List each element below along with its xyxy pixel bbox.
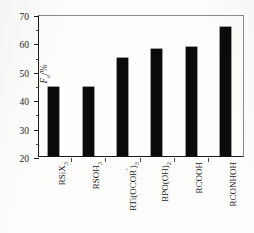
y-tick-major: 40: [34, 101, 39, 102]
y-tick-major: 70: [34, 16, 39, 17]
y-tick-label: 60: [20, 40, 30, 50]
y-tick-label: 70: [20, 12, 30, 22]
x-label-base: RCONHOH: [228, 162, 238, 207]
y-tick-minor: [36, 87, 39, 88]
x-label-subscript: 3: [61, 162, 68, 165]
y-tick-major: 50: [34, 73, 39, 74]
y-tick-minor: [36, 30, 39, 31]
x-tick: [105, 158, 106, 162]
bar-chart-figure: Fe/% 203040506070 RSiX3RSOH3RTi(OCOR')3R…: [0, 0, 254, 233]
x-label-base: RTi(OCOR: [128, 170, 138, 211]
y-tick-label: 40: [20, 97, 30, 107]
bar: [117, 58, 128, 156]
x-label-subscript: 3: [96, 162, 103, 165]
y-tick-label: 20: [20, 154, 30, 164]
y-axis-unit: /%: [39, 64, 49, 75]
x-label-base: RCOOH: [194, 162, 204, 194]
x-axis-label: RTi(OCOR')3: [125, 162, 140, 211]
bar: [186, 47, 197, 156]
y-tick-minor: [36, 59, 39, 60]
y-tick-label: 50: [20, 69, 30, 79]
bar: [48, 87, 59, 156]
y-tick-minor: [36, 144, 39, 145]
x-axis-label: RPO(OH)2: [160, 162, 172, 202]
x-label-prime: ': [125, 168, 134, 169]
x-axis-label: RSiX3: [57, 162, 69, 185]
y-tick-major: 30: [34, 130, 39, 131]
x-tick: [71, 158, 72, 162]
x-axis-label: RCONHOH: [228, 162, 238, 207]
x-label-subscript: 2: [164, 162, 171, 165]
x-label-tail: ): [128, 165, 138, 168]
x-label-tail: H: [91, 165, 101, 172]
y-tick-major: 60: [34, 44, 39, 45]
bar: [220, 27, 231, 156]
x-tick: [174, 158, 175, 162]
x-tick: [208, 158, 209, 162]
y-tick-major: 20: [34, 158, 39, 159]
x-label-base: RSO: [91, 172, 101, 190]
x-axis-label: RCOOH: [194, 162, 204, 194]
x-label-base: RSiX: [57, 165, 67, 185]
y-axis-subscript: e: [44, 75, 51, 78]
y-tick-minor: [36, 115, 39, 116]
x-label-subscript: 3: [133, 162, 140, 165]
x-axis-label: RSOH3: [91, 162, 103, 189]
y-axis-symbol: F: [39, 78, 49, 84]
y-tick-label: 30: [20, 126, 30, 136]
x-label-base: RPO(OH): [160, 165, 170, 202]
plot-frame: Fe/% 203040506070: [38, 15, 244, 157]
bar: [83, 87, 94, 156]
bar: [151, 49, 162, 156]
